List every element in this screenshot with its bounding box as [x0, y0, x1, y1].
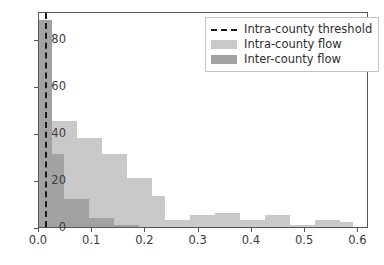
x-tick-mark: [304, 228, 305, 232]
x-tick-label: 0.2: [119, 235, 169, 247]
x-tick-label: 0.0: [13, 235, 63, 247]
legend-label: Intra-county threshold: [244, 24, 372, 36]
y-tick-label: 20: [6, 175, 66, 187]
chart-legend: Intra-county thresholdIntra-county flowI…: [205, 17, 379, 72]
legend-swatch-icon: [211, 55, 237, 64]
y-tick-label: 80: [6, 34, 66, 46]
legend-dashed-line-icon: [211, 29, 237, 31]
legend-item: Intra-county threshold: [211, 22, 372, 37]
legend-item: Inter-county flow: [211, 52, 372, 67]
x-tick-label: 0.3: [173, 235, 223, 247]
x-tick-mark: [91, 228, 92, 232]
x-tick-label: 0.6: [332, 235, 382, 247]
x-tick-mark: [144, 228, 145, 232]
legend-swatch-icon: [211, 40, 237, 49]
x-tick-label: 0.4: [226, 235, 276, 247]
legend-label: Inter-county flow: [244, 54, 341, 66]
x-tick-mark: [251, 228, 252, 232]
y-tick-label: 60: [6, 81, 66, 93]
legend-label: Intra-county flow: [244, 39, 342, 51]
x-tick-label: 0.1: [66, 235, 116, 247]
histogram-figure: 020406080 0.00.10.20.30.40.50.6 Intra-co…: [0, 0, 384, 265]
x-tick-mark: [38, 228, 39, 232]
x-tick-label: 0.5: [279, 235, 329, 247]
legend-item: Intra-county flow: [211, 37, 372, 52]
x-tick-mark: [357, 228, 358, 232]
x-tick-mark: [198, 228, 199, 232]
y-tick-label: 0: [6, 222, 66, 234]
y-tick-label: 40: [6, 128, 66, 140]
